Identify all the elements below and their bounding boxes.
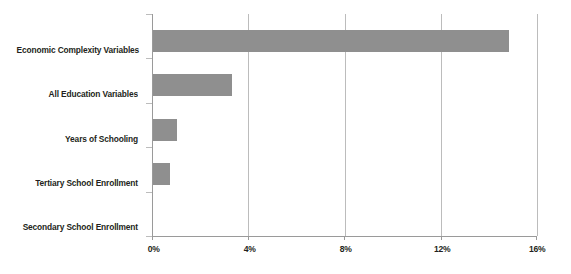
x-tick-label-2: 8% (340, 243, 352, 254)
x-tick-label-1: 4% (244, 243, 256, 254)
x-axis-tick-4 (536, 236, 537, 240)
bar-all-education-variables (153, 74, 232, 96)
category-label-3: Tertiary School Enrollment (17, 177, 138, 188)
x-tick-label-0: 0% (148, 243, 160, 254)
plot-area (152, 14, 537, 236)
x-axis-tick-1 (248, 236, 249, 240)
category-label-0: Economic Complexity Variables (17, 44, 138, 55)
category-label-4: Secondary School Enrollment (17, 221, 138, 232)
x-axis-tick-2 (344, 236, 345, 240)
bar-tertiary-school-enrollment (153, 163, 170, 185)
category-label-1: All Education Variables (17, 88, 138, 99)
category-label-2: Years of Schooling (17, 133, 138, 144)
bar-chart: Economic Complexity Variables All Educat… (0, 0, 571, 274)
bar-economic-complexity-variables (153, 30, 509, 52)
gridline-16-percent (537, 14, 538, 236)
x-tick-label-3: 12% (434, 243, 451, 254)
x-axis-tick-3 (441, 236, 442, 240)
y-axis-category-labels: Economic Complexity Variables All Educat… (0, 14, 146, 236)
x-axis-tick-labels: 0% 4% 8% 12% 16% (0, 243, 571, 259)
bar-years-of-schooling (153, 119, 177, 141)
x-tick-label-4: 16% (529, 243, 546, 254)
x-axis-tick-0 (152, 236, 153, 240)
